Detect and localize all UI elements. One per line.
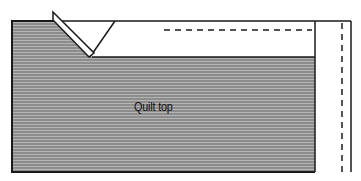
quilt-binding-diagram: Quilt top: [0, 0, 361, 181]
quilt-top-label: Quilt top: [134, 100, 173, 114]
diagram-canvas: [0, 0, 361, 181]
right-binding-band: [315, 21, 351, 172]
